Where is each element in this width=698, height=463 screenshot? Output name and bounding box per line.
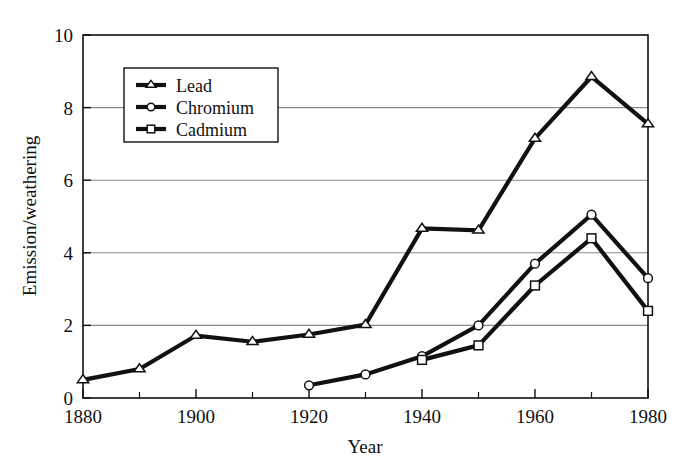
y-axis-title: Emission/weathering (19, 135, 40, 296)
legend-marker-circle-icon (147, 103, 155, 111)
data-point-marker (305, 381, 314, 390)
y-tick-label: 4 (64, 243, 74, 264)
data-point-marker (644, 274, 653, 283)
data-point-marker (531, 259, 540, 268)
data-point-marker (531, 281, 540, 290)
x-tick-label: 1940 (403, 406, 441, 427)
x-tick-label: 1880 (64, 406, 102, 427)
legend-label: Cadmium (176, 120, 247, 140)
y-tick-label: 0 (64, 388, 74, 409)
x-tick-label: 1900 (177, 406, 215, 427)
x-tick-label: 1960 (516, 406, 554, 427)
y-tick-label: 2 (64, 315, 74, 336)
data-point-marker (361, 370, 370, 379)
y-tick-label: 8 (64, 98, 74, 119)
y-tick-label: 6 (64, 170, 74, 191)
chart-figure: 188019001920194019601980 0246810 Year Em… (0, 0, 698, 463)
legend-marker-square-icon (147, 125, 155, 133)
data-point-marker (474, 341, 483, 350)
chart-legend: LeadChromiumCadmium (124, 68, 278, 142)
x-tick-label: 1920 (290, 406, 328, 427)
chart-background (0, 0, 698, 463)
y-tick-label: 10 (54, 25, 73, 46)
x-tick-label: 1980 (629, 406, 667, 427)
legend-label: Lead (176, 76, 212, 96)
data-point-marker (474, 321, 483, 330)
data-point-marker (587, 210, 596, 219)
data-point-marker (418, 355, 427, 364)
line-chart: 188019001920194019601980 0246810 Year Em… (0, 0, 698, 463)
data-point-marker (587, 234, 596, 243)
legend-label: Chromium (176, 98, 254, 118)
data-point-marker (644, 306, 653, 315)
x-axis-title: Year (347, 436, 383, 457)
